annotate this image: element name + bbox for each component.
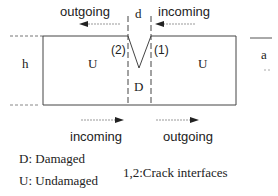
legend-interfaces: 1,2:Crack interfaces bbox=[123, 166, 228, 179]
side-a-label: a bbox=[261, 48, 267, 61]
bottom-incoming-label: incoming bbox=[70, 130, 122, 143]
legend-damaged: D: Damaged bbox=[19, 152, 85, 165]
top-outgoing-label: outgoing bbox=[60, 5, 110, 18]
top-incoming-label: incoming bbox=[158, 5, 210, 18]
interface-1-label: (1) bbox=[154, 44, 169, 56]
damaged-region-label: D bbox=[134, 80, 143, 93]
interface-2-label: (2) bbox=[111, 44, 126, 56]
crack-width-label: d bbox=[135, 7, 142, 20]
left-undamaged-label: U bbox=[88, 57, 97, 70]
legend-undamaged: U: Undamaged bbox=[19, 174, 98, 187]
right-undamaged-label: U bbox=[198, 57, 207, 70]
height-label: h bbox=[22, 57, 29, 70]
crack-diagram: outgoing d incoming h U (2) (1) D U a in… bbox=[0, 0, 278, 196]
bottom-outgoing-label: outgoing bbox=[163, 130, 213, 143]
